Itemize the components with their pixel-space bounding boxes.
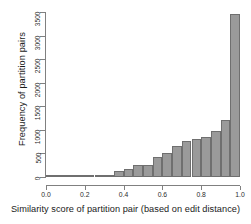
histogram-bar — [114, 171, 124, 177]
histogram-bar — [182, 141, 192, 177]
x-tick-label: 0.6 — [150, 191, 174, 198]
plot-area — [46, 12, 240, 177]
x-axis-line — [46, 185, 240, 186]
histogram-bar — [85, 175, 95, 177]
x-tick-label: 0.0 — [34, 191, 58, 198]
histogram-bar — [201, 137, 211, 177]
histogram-bar — [133, 165, 143, 177]
histogram-bar — [221, 120, 231, 178]
x-tick-label: 0.8 — [189, 191, 213, 198]
x-tick-mark — [240, 186, 241, 190]
x-tick-mark — [201, 186, 202, 190]
x-tick-mark — [46, 186, 47, 190]
y-tick-label: 2000 — [35, 82, 42, 97]
y-tick-label: 3500 — [35, 12, 42, 27]
x-tick-label: 1.0 — [228, 191, 251, 198]
histogram-bar — [65, 175, 75, 177]
histogram-bar — [162, 153, 172, 177]
histogram-bar — [153, 157, 163, 177]
histogram-bar — [56, 175, 66, 177]
y-tick-label: 0 — [35, 177, 42, 181]
histogram-bar — [104, 175, 114, 177]
y-tick-label: 3000 — [35, 35, 42, 50]
histogram-bar — [124, 169, 134, 177]
histogram-figure: Frequency of partition pairs Similarity … — [0, 0, 251, 224]
histogram-bar — [211, 131, 221, 177]
x-tick-mark — [85, 186, 86, 190]
x-axis-title: Similarity score of partition pair (base… — [0, 204, 251, 214]
histogram-bar — [230, 14, 240, 177]
x-tick-label: 0.2 — [73, 191, 97, 198]
y-tick-label: 1000 — [35, 129, 42, 144]
x-tick-mark — [124, 186, 125, 190]
y-tick-label: 2500 — [35, 59, 42, 74]
histogram-bar — [95, 175, 105, 177]
histogram-bar — [192, 139, 202, 177]
histogram-bar — [46, 175, 56, 177]
y-tick-label: 500 — [35, 153, 42, 164]
histogram-bar — [75, 175, 85, 177]
y-tick-label: 1500 — [35, 106, 42, 121]
histogram-bar — [172, 146, 182, 177]
y-axis-title: Frequency of partition pairs — [17, 9, 27, 169]
histogram-bar — [143, 165, 153, 177]
x-tick-label: 0.4 — [112, 191, 136, 198]
x-tick-mark — [162, 186, 163, 190]
